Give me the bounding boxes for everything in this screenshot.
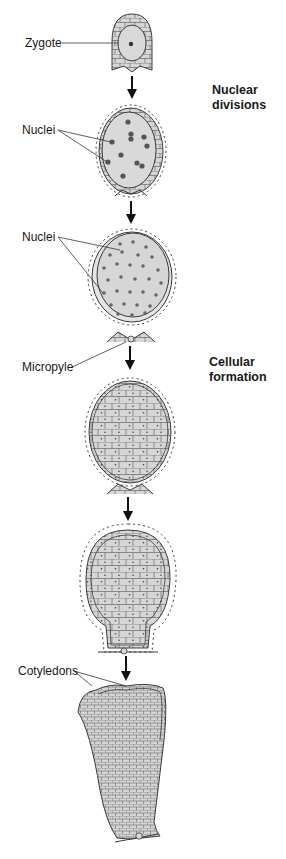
stage-cotyledon bbox=[78, 684, 166, 842]
stage-free-nuclear-few bbox=[96, 105, 166, 197]
leader-cotyledons-b bbox=[74, 671, 126, 686]
label-zygote: Zygote bbox=[25, 37, 62, 49]
stage-cellular-early bbox=[85, 378, 175, 494]
arrow-2 bbox=[126, 201, 136, 224]
leader-micropyle bbox=[72, 342, 126, 367]
label-cotyledons: Cotyledons bbox=[18, 665, 78, 677]
phase-nuclear-divisions: Nuclear divisions bbox=[212, 83, 266, 113]
label-nuclei-1: Nuclei bbox=[22, 124, 55, 136]
label-nuclei-2: Nuclei bbox=[22, 231, 55, 243]
arrow-4 bbox=[123, 497, 133, 521]
stage-cellular-late bbox=[80, 524, 176, 654]
arrow-3 bbox=[125, 346, 135, 370]
arrow-1 bbox=[127, 76, 137, 99]
phase-cellular-formation: Cellular formation bbox=[209, 355, 267, 385]
arrow-5 bbox=[121, 656, 131, 681]
label-micropyle: Micropyle bbox=[22, 361, 73, 373]
